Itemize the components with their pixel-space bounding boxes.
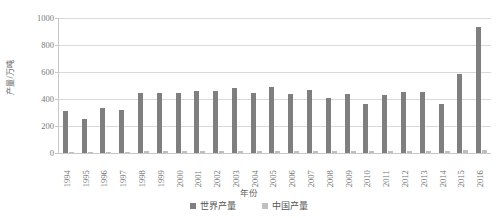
bar-group: [97, 18, 116, 153]
x-tick-label: 1997: [119, 170, 128, 187]
x-tick-label-cell: 2001: [189, 154, 208, 188]
bar: [63, 111, 68, 153]
bar: [100, 108, 105, 153]
x-tick-label-cell: 2006: [283, 154, 302, 188]
bar: [257, 151, 262, 153]
bar: [138, 93, 143, 153]
x-tick-label: 2012: [401, 170, 410, 187]
x-tick-label: 2014: [439, 170, 448, 187]
bar-group: [209, 18, 228, 153]
x-axis-tick-labels: 1994199519961997199819992000200120022003…: [58, 154, 490, 188]
bar-group: [134, 18, 153, 153]
bar: [351, 151, 356, 153]
y-tick-label-0: 0: [50, 149, 54, 158]
bar-group: [190, 18, 209, 153]
legend-swatch-icon: [262, 203, 268, 209]
bar-group: [228, 18, 247, 153]
y-axis-tick-labels: 02004006008001000: [18, 12, 58, 159]
bar: [269, 87, 274, 153]
bar: [82, 119, 87, 153]
bar: [213, 91, 218, 153]
x-tick-label-cell: 2004: [246, 154, 265, 188]
x-tick-label-cell: 2011: [377, 154, 396, 188]
x-tick-label-cell: 2003: [227, 154, 246, 188]
x-tick-label: 2005: [270, 170, 279, 187]
y-axis-title-text: 产量/万吨: [4, 60, 15, 94]
x-tick-label: 2007: [307, 170, 316, 187]
bar: [439, 104, 444, 153]
y-tick-label-400: 400: [41, 95, 54, 104]
x-tick-label: 2003: [232, 170, 241, 187]
bar: [194, 91, 199, 153]
bar-group: [360, 18, 379, 153]
legend-item[interactable]: 中国产量: [262, 199, 308, 212]
x-tick-label: 2015: [458, 170, 467, 187]
x-tick-label: 1999: [157, 170, 166, 187]
bar: [369, 151, 374, 153]
x-tick-label: 2000: [176, 170, 185, 187]
bar: [157, 93, 162, 153]
bar: [163, 151, 168, 153]
bar-group: [247, 18, 266, 153]
y-tick-label-800: 800: [41, 41, 54, 50]
x-tick-label-cell: 2009: [340, 154, 359, 188]
bar-group: [322, 18, 341, 153]
bar: [232, 88, 237, 153]
bar-group: [266, 18, 285, 153]
x-tick-label-cell: 2014: [434, 154, 453, 188]
x-tick-label-cell: 2007: [302, 154, 321, 188]
bar: [476, 27, 481, 153]
bar: [294, 151, 299, 153]
bar: [326, 98, 331, 153]
x-tick-label-cell: 2015: [452, 154, 471, 188]
x-tick-label-cell: 2008: [321, 154, 340, 188]
legend-label: 世界产量: [200, 199, 236, 212]
x-tick-label-cell: 1994: [58, 154, 77, 188]
bar-group: [59, 18, 78, 153]
chart-legend: 世界产量中国产量: [0, 199, 497, 212]
bar: [482, 150, 487, 154]
bar: [275, 151, 280, 153]
x-tick-label-cell: 2012: [396, 154, 415, 188]
bar: [426, 151, 431, 153]
y-tick-label-1000: 1000: [37, 14, 54, 23]
bar: [251, 93, 256, 153]
x-tick-label: 2009: [345, 170, 354, 187]
x-tick-label-cell: 1998: [133, 154, 152, 188]
bar: [106, 152, 111, 153]
x-axis-title-text: 年份: [240, 188, 258, 198]
x-tick-label-cell: 2005: [265, 154, 284, 188]
bar-series-container: [59, 18, 491, 153]
x-tick-label: 1995: [82, 170, 91, 187]
bar: [307, 90, 312, 153]
plot-area: [58, 18, 491, 153]
x-tick-label: 2011: [382, 170, 391, 187]
x-tick-label: 2004: [251, 170, 260, 187]
bar-group: [303, 18, 322, 153]
x-tick-label: 2016: [476, 170, 485, 187]
bar: [463, 150, 468, 153]
bar: [345, 94, 350, 153]
bar-group: [378, 18, 397, 153]
legend-label: 中国产量: [272, 199, 308, 212]
bar-group: [435, 18, 454, 153]
legend-swatch-icon: [190, 203, 196, 209]
bar: [144, 151, 149, 153]
bar-group: [416, 18, 435, 153]
x-tick-label-cell: 2013: [415, 154, 434, 188]
bar: [88, 152, 93, 153]
bar-group: [341, 18, 360, 153]
x-tick-label-cell: 1997: [114, 154, 133, 188]
x-tick-label: 1998: [138, 170, 147, 187]
bar: [219, 151, 224, 153]
x-tick-label-cell: 1999: [152, 154, 171, 188]
legend-item[interactable]: 世界产量: [190, 199, 236, 212]
bar-group: [284, 18, 303, 153]
bar: [200, 151, 205, 153]
bar-group: [172, 18, 191, 153]
bar: [420, 92, 425, 153]
bar: [69, 152, 74, 153]
bar-group: [115, 18, 134, 153]
bar: [382, 95, 387, 153]
x-axis-title: 年份: [0, 186, 497, 198]
